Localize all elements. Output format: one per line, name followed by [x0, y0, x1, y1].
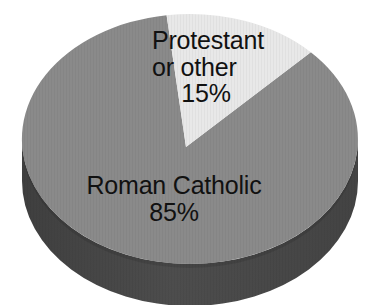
- slice-label-line-1: Protestant: [152, 27, 264, 54]
- slice-label-line-2: or other: [152, 54, 264, 81]
- pie-chart: Protestant or other 15% Roman Catholic 8…: [0, 0, 378, 305]
- slice-percent-roman-catholic: 85%: [0, 199, 348, 226]
- slice-percent-protestant-or-other: 15%: [152, 80, 264, 107]
- slice-label-protestant-or-other: Protestant or other 15%: [152, 27, 264, 107]
- slice-label-line-1: Roman Catholic: [0, 172, 348, 199]
- slice-label-roman-catholic: Roman Catholic 85%: [0, 172, 348, 225]
